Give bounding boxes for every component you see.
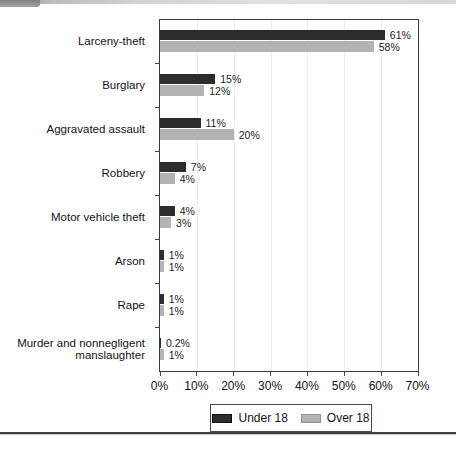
page-bottom-rule — [0, 432, 456, 434]
bar-group-robbery: 7%4% — [160, 152, 418, 196]
x-axis-label-20%: 20% — [213, 379, 253, 393]
x-axis-tick-30% — [270, 372, 271, 376]
category-label-arson: Arson — [0, 239, 152, 283]
x-axis-label-70%: 70% — [398, 379, 438, 393]
category-axis-labels: Larceny-theftBurglaryAggravated assaultR… — [0, 19, 152, 371]
x-axis-tick-60% — [381, 372, 382, 376]
value-label-over-18-rape: 1% — [169, 306, 184, 316]
category-label-robbery: Robbery — [0, 151, 152, 195]
category-label-rape: Rape — [0, 283, 152, 327]
bar-group-aggravated-assault: 11%20% — [160, 108, 418, 152]
category-label-larceny-theft: Larceny-theft — [0, 19, 152, 63]
value-label-over-18-arson: 1% — [169, 262, 184, 272]
legend-item-over-18: Over 18 — [301, 411, 370, 425]
legend-swatch-over-18-icon — [301, 414, 321, 423]
bar-over-18-arson — [160, 261, 164, 272]
value-label-under-18-larceny-theft: 61% — [390, 30, 411, 40]
category-label-motor-vehicle-theft: Motor vehicle theft — [0, 195, 152, 239]
plot-area: 61%58%15%12%11%20%7%4%4%3%1%1%1%1%0.2%1% — [159, 19, 419, 372]
x-axis-tick-0% — [160, 372, 161, 376]
x-axis-label-0%: 0% — [140, 379, 180, 393]
bar-over-18-motor-vehicle-theft — [160, 217, 171, 228]
x-axis-tick-70% — [418, 372, 419, 376]
x-axis-tick-10% — [196, 372, 197, 376]
bar-group-burglary: 15%12% — [160, 64, 418, 108]
legend-label-over-18: Over 18 — [327, 411, 370, 425]
x-axis-label-10%: 10% — [176, 379, 216, 393]
y-axis-tick-2 — [155, 107, 159, 108]
x-axis-label-60%: 60% — [361, 379, 401, 393]
bar-under-18-aggravated-assault — [160, 118, 201, 128]
bar-under-18-murder-and-nonnegligent-manslaughter — [160, 338, 161, 348]
page-scan-top-band — [0, 0, 456, 4]
bar-group-murder-and-nonnegligent-manslaughter: 0.2%1% — [160, 328, 418, 372]
bar-over-18-rape — [160, 305, 164, 316]
value-label-over-18-motor-vehicle-theft: 3% — [176, 218, 191, 228]
y-axis-tick-3 — [155, 151, 159, 152]
bar-over-18-murder-and-nonnegligent-manslaughter — [160, 349, 164, 360]
y-axis-tick-7 — [155, 327, 159, 328]
value-label-under-18-motor-vehicle-theft: 4% — [180, 206, 195, 216]
bar-under-18-robbery — [160, 162, 186, 172]
y-axis-tick-6 — [155, 283, 159, 284]
value-label-under-18-aggravated-assault: 11% — [206, 118, 226, 128]
bar-group-arson: 1%1% — [160, 240, 418, 284]
x-axis-tick-50% — [344, 372, 345, 376]
value-label-under-18-arson: 1% — [169, 250, 184, 260]
category-label-murder-and-nonnegligent-manslaughter: Murder and nonnegligent manslaughter — [0, 327, 152, 371]
value-label-over-18-larceny-theft: 58% — [379, 42, 400, 52]
category-label-aggravated-assault: Aggravated assault — [0, 107, 152, 151]
bar-group-motor-vehicle-theft: 4%3% — [160, 196, 418, 240]
x-axis-label-40%: 40% — [287, 379, 327, 393]
value-label-over-18-burglary: 12% — [209, 86, 230, 96]
bar-over-18-larceny-theft — [160, 41, 374, 52]
bar-over-18-aggravated-assault — [160, 129, 234, 140]
bar-under-18-burglary — [160, 74, 215, 84]
bar-under-18-rape — [160, 294, 164, 304]
y-axis-tick-5 — [155, 239, 159, 240]
x-axis-tick-40% — [307, 372, 308, 376]
value-label-over-18-murder-and-nonnegligent-manslaughter: 1% — [169, 350, 184, 360]
bar-under-18-motor-vehicle-theft — [160, 206, 175, 216]
bar-over-18-burglary — [160, 85, 204, 96]
x-axis-label-30%: 30% — [250, 379, 290, 393]
value-label-over-18-robbery: 4% — [180, 174, 195, 184]
x-axis-tick-20% — [233, 372, 234, 376]
legend-swatch-under-18-icon — [212, 414, 232, 423]
legend-label-under-18: Under 18 — [238, 411, 287, 425]
bar-under-18-larceny-theft — [160, 30, 385, 40]
category-label-burglary: Burglary — [0, 63, 152, 107]
legend: Under 18 Over 18 — [210, 404, 372, 432]
value-label-under-18-robbery: 7% — [191, 162, 206, 172]
x-axis-label-50%: 50% — [324, 379, 364, 393]
value-label-under-18-murder-and-nonnegligent-manslaughter: 0.2% — [166, 338, 190, 348]
bar-under-18-arson — [160, 250, 164, 260]
value-label-under-18-burglary: 15% — [220, 74, 241, 84]
page-scan-corner-mark — [0, 0, 40, 7]
y-axis-tick-1 — [155, 63, 159, 64]
bar-group-larceny-theft: 61%58% — [160, 20, 418, 64]
scanned-chart-page: 61%58%15%12%11%20%7%4%4%3%1%1%1%1%0.2%1%… — [0, 0, 456, 452]
value-label-under-18-rape: 1% — [169, 294, 184, 304]
legend-item-under-18: Under 18 — [212, 411, 287, 425]
bar-group-rape: 1%1% — [160, 284, 418, 328]
y-axis-tick-4 — [155, 195, 159, 196]
bar-over-18-robbery — [160, 173, 175, 184]
value-label-over-18-aggravated-assault: 20% — [239, 130, 260, 140]
